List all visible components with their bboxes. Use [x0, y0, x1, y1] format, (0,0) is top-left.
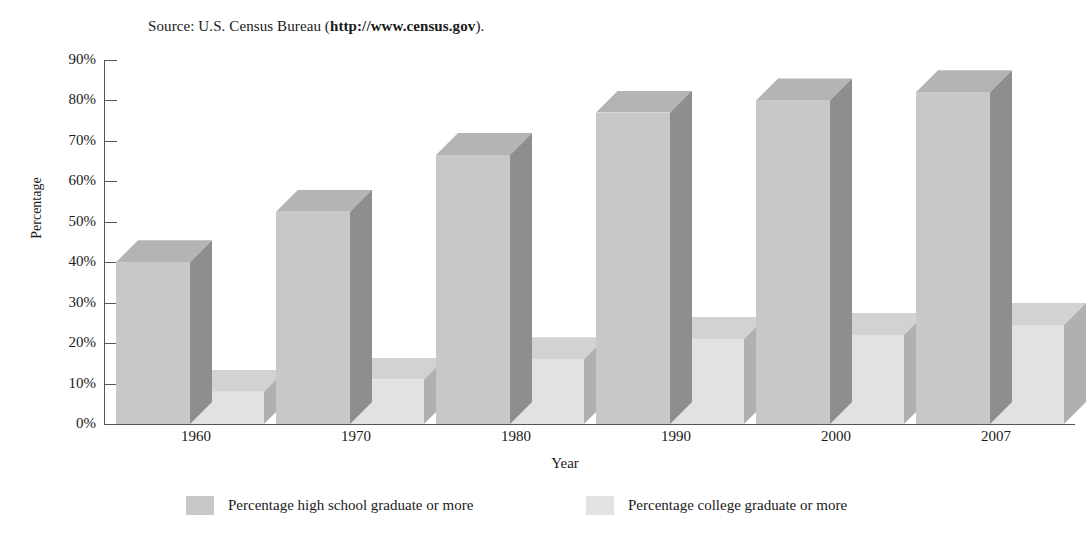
y-tick-mark: [105, 141, 117, 142]
bar-side-face: [830, 78, 852, 424]
legend-item[interactable]: Percentage high school graduate or more: [186, 496, 473, 515]
bar-front-face: [756, 100, 830, 424]
bar-side-face: [670, 91, 692, 424]
y-axis-line: [104, 60, 105, 425]
y-tick-mark: [105, 100, 117, 101]
bar-highschool-1990: [596, 91, 670, 424]
bar-highschool-1960: [116, 240, 190, 424]
y-tick-label: 50%: [40, 214, 96, 229]
x-tick-label: 1990: [616, 428, 736, 445]
y-tick-label: 0%: [40, 416, 96, 431]
chart-legend: Percentage high school graduate or moreP…: [0, 496, 1089, 530]
bar-highschool-2000: [756, 78, 830, 424]
bar-side-face: [190, 240, 212, 424]
x-tick-label: 1960: [136, 428, 256, 445]
y-tick-label: 80%: [40, 92, 96, 107]
x-tick-label: 1980: [456, 428, 576, 445]
x-axis-title: Year: [505, 455, 625, 472]
legend-swatch: [586, 496, 614, 515]
legend-swatch: [186, 496, 214, 515]
y-tick-mark: [105, 181, 117, 182]
legend-item[interactable]: Percentage college graduate or more: [586, 496, 847, 515]
y-tick-label: 10%: [40, 376, 96, 391]
bar-side-face: [990, 70, 1012, 424]
bar-front-face: [116, 262, 190, 424]
bar-chart: Percentage Year 0%10%20%30%40%50%60%70%8…: [0, 0, 1089, 545]
legend-label: Percentage college graduate or more: [628, 497, 847, 514]
x-axis-line: [104, 424, 1075, 425]
bar-front-face: [916, 92, 990, 424]
bar-highschool-1980: [436, 133, 510, 424]
bar-front-face: [596, 113, 670, 424]
y-tick-mark: [105, 222, 117, 223]
bar-side-face: [510, 133, 532, 424]
y-tick-label: 90%: [40, 52, 96, 67]
bar-front-face: [436, 155, 510, 424]
bar-front-face: [276, 212, 350, 424]
x-tick-label: 1970: [296, 428, 416, 445]
bar-highschool-2007: [916, 70, 990, 424]
bar-highschool-1970: [276, 190, 350, 424]
x-tick-label: 2007: [936, 428, 1056, 445]
x-tick-label: 2000: [776, 428, 896, 445]
legend-label: Percentage high school graduate or more: [228, 497, 473, 514]
y-axis-top-cap: [105, 60, 117, 61]
y-tick-label: 60%: [40, 173, 96, 188]
bar-side-face: [350, 190, 372, 424]
y-tick-label: 20%: [40, 335, 96, 350]
y-tick-label: 70%: [40, 133, 96, 148]
y-tick-label: 30%: [40, 295, 96, 310]
y-tick-label: 40%: [40, 254, 96, 269]
